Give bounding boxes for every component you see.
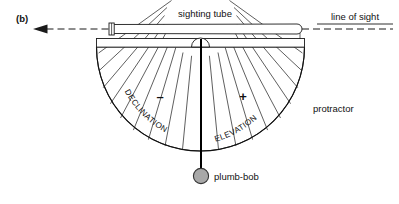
plus-sign-label: + [239, 89, 247, 104]
panel-label: (b) [16, 13, 28, 24]
line-of-sight-label: line of sight [331, 11, 379, 22]
figure-panel-b: (b) sighting tube line of sight protract… [0, 0, 399, 204]
theodolite-diagram: (b) sighting tube line of sight protract… [0, 0, 399, 204]
sighting-tube-label: sighting tube [178, 8, 232, 19]
sighting-tube-group [109, 23, 302, 39]
sighting-tube-body [114, 24, 303, 34]
plumb-bob-label: plumb-bob [214, 171, 259, 182]
plumb-bob [193, 168, 208, 183]
minus-sign-label: – [156, 89, 163, 104]
protractor-label: protractor [313, 103, 354, 114]
line-of-sight-arrowhead [33, 25, 48, 34]
